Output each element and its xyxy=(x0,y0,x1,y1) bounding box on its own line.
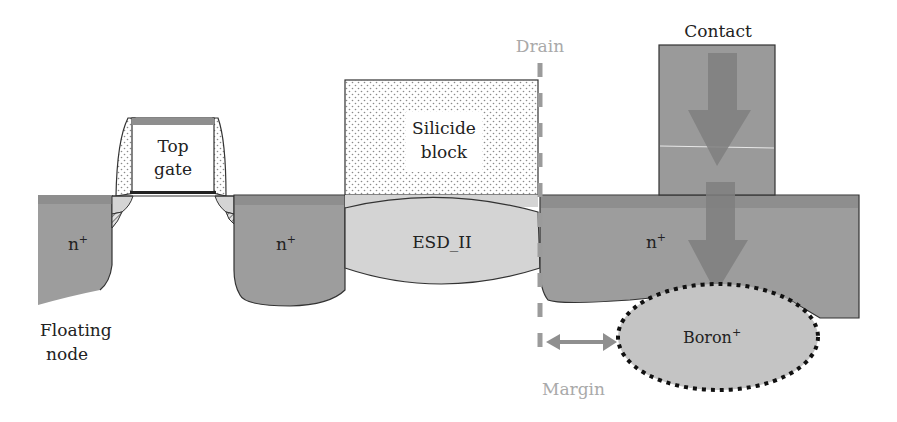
floating-node-label-line1: Floating xyxy=(40,320,112,340)
silicide-label-line1: Silicide xyxy=(412,118,476,138)
margin-indicator: Margin xyxy=(542,333,617,399)
right-arrowhead-icon xyxy=(603,333,617,351)
top-gate-label-line2: gate xyxy=(154,159,192,179)
top-gate-structure: Top gate xyxy=(112,118,234,228)
contact-label: Contact xyxy=(684,21,752,41)
floating-node-label-line2: node xyxy=(46,344,88,364)
esd-label: ESD_II xyxy=(412,232,472,252)
esd-cross-section-diagram: Top gate Silicide block ESD_II Contact B… xyxy=(0,0,897,422)
silicide-block: Silicide block xyxy=(345,80,538,195)
silicide-label-line2: block xyxy=(421,142,468,162)
drain-label: Drain xyxy=(516,36,564,56)
margin-label: Margin xyxy=(542,379,605,399)
esd-ii-region: ESD_II xyxy=(345,195,540,284)
middle-n-plus-region xyxy=(234,195,345,306)
boron-implant-region: Boron+ xyxy=(618,284,818,390)
left-arrowhead-icon xyxy=(546,334,560,350)
top-gate-label-line1: Top xyxy=(157,136,188,156)
